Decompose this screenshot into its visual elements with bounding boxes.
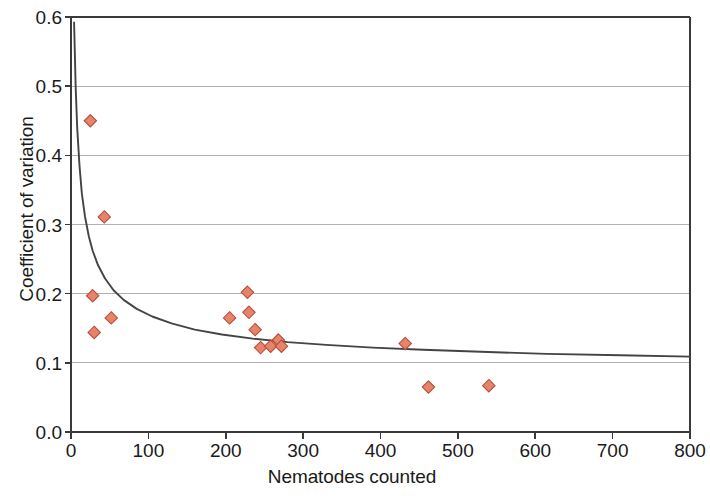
x-tick-label: 500 [423, 441, 493, 460]
data-point-marker [84, 115, 96, 127]
data-point-marker [249, 323, 261, 335]
data-point-marker [254, 341, 266, 353]
x-tick-label: 600 [500, 441, 570, 460]
x-tick-label: 200 [191, 441, 261, 460]
y-tick-label: 0.0 [6, 423, 62, 442]
x-tick-label: 100 [113, 441, 183, 460]
fitted-curve [74, 23, 690, 357]
data-point-marker [98, 211, 110, 223]
data-point-marker [86, 290, 98, 302]
x-tick-label: 800 [655, 441, 710, 460]
data-point-marker [88, 326, 100, 338]
data-point-marker [241, 286, 253, 298]
data-point-marker [223, 312, 235, 324]
data-point-marker [243, 306, 255, 318]
x-tick-label: 300 [268, 441, 338, 460]
scatter-series [84, 115, 495, 394]
x-tick-label: 700 [578, 441, 648, 460]
y-axis-title: Coefficient of variation [16, 79, 38, 339]
y-tick-label: 0.6 [6, 8, 62, 27]
x-axis-title: Nematodes counted [0, 466, 704, 488]
data-point-marker [105, 312, 117, 324]
x-tick-label: 0 [36, 441, 106, 460]
data-point-marker [483, 379, 495, 391]
data-point-marker [422, 381, 434, 393]
y-tick-label: 0.1 [6, 354, 62, 373]
data-point-marker [399, 337, 411, 349]
x-tick-label: 400 [346, 441, 416, 460]
